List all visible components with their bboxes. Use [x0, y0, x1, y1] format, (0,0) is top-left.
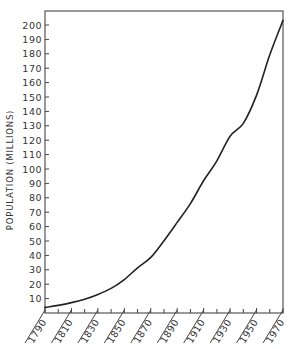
y-tick-label: 180 [22, 48, 42, 59]
y-tick-label: 60 [29, 221, 42, 232]
y-tick-label: 110 [22, 149, 42, 160]
x-tick-label: 1970 [263, 317, 286, 345]
plot-frame [45, 11, 283, 313]
y-tick-label: 150 [22, 92, 42, 103]
y-tick-label: 80 [29, 192, 42, 203]
x-tick-label: 1930 [210, 317, 233, 345]
y-tick-label: 130 [22, 120, 42, 131]
population-chart: 1020304050607080901001101201301401501601… [0, 0, 291, 349]
x-tick-label: 1910 [184, 317, 207, 345]
y-tick-label: 200 [22, 20, 42, 31]
y-tick-label: 70 [29, 207, 42, 218]
y-tick-label: 120 [22, 135, 42, 146]
y-tick-label: 90 [29, 178, 42, 189]
x-tick-label: 1810 [52, 317, 75, 345]
y-tick-label: 100 [22, 164, 42, 175]
x-tick-label: 1830 [78, 317, 101, 345]
y-tick-label: 40 [29, 250, 42, 261]
x-tick-label: 1950 [237, 317, 260, 345]
x-tick-label: 1870 [131, 317, 154, 345]
y-tick-label: 160 [22, 77, 42, 88]
population-curve [45, 20, 283, 307]
y-tick-label: 50 [29, 236, 42, 247]
y-tick-label: 20 [29, 279, 42, 290]
y-tick-label: 10 [29, 293, 42, 304]
y-axis-title: POPULATION (MILLIONS) [5, 110, 15, 230]
x-tick-label: 1890 [158, 317, 181, 345]
y-tick-label: 140 [22, 106, 42, 117]
x-tick-label: 1790 [25, 317, 48, 345]
y-tick-label: 170 [22, 63, 42, 74]
y-tick-label: 190 [22, 34, 42, 45]
x-tick-label: 1850 [105, 317, 128, 345]
y-tick-label: 30 [29, 264, 42, 275]
